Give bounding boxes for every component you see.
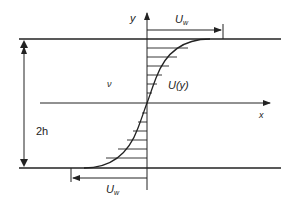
profile-label: U(y) [168,80,189,91]
diagram-canvas [0,0,295,200]
x-axis-label: x [259,111,264,120]
y-axis-label: y [130,13,136,24]
top-wall-velocity-label: Uw [175,14,188,26]
gap-label: 2h [36,126,48,137]
viscosity-label: ν [107,80,112,89]
bottom-wall-velocity-label: Uw [106,184,119,196]
